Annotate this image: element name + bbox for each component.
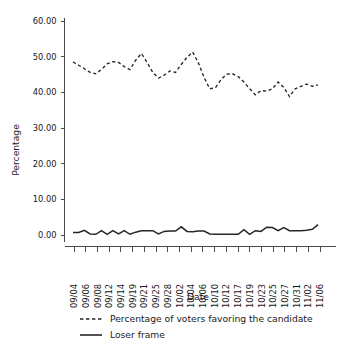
x-axis-tick-label: 09/28 <box>163 284 173 308</box>
y-axis-tick-label: 30.00 <box>33 123 57 133</box>
x-axis-tick-label: 10/23 <box>257 284 267 308</box>
x-axis-tick-label: 09/19 <box>128 284 138 308</box>
x-axis-tick-label: 10/27 <box>280 284 290 308</box>
x-axis-tick-label: 11/02 <box>303 284 313 308</box>
x-axis-tick-label: 10/17 <box>233 284 243 308</box>
legend-label: Loser frame <box>110 329 165 340</box>
x-axis-tick-label: 09/14 <box>116 284 126 308</box>
y-axis-tick-label: 50.00 <box>33 52 57 62</box>
x-axis-tick-label: 10/31 <box>292 284 302 308</box>
x-axis-tick-label: 09/25 <box>151 284 161 308</box>
legend-label: Percentage of voters favoring the candid… <box>110 313 313 324</box>
x-axis-title: Date <box>187 291 209 302</box>
x-axis-tick-label: 09/04 <box>69 284 79 308</box>
x-axis-tick-label: 10/10 <box>210 284 220 308</box>
y-axis-title: Percentage <box>10 124 21 176</box>
y-axis-tick-label: 0.00 <box>38 230 56 240</box>
y-axis-tick-label: 10.00 <box>33 194 57 204</box>
y-axis-tick-label: 40.00 <box>33 87 57 97</box>
x-axis-tick-label: 09/21 <box>139 284 149 308</box>
x-axis-tick-label: 10/02 <box>175 284 185 308</box>
x-axis-tick-label: 09/06 <box>81 284 91 308</box>
x-axis-tick-label: 10/25 <box>268 284 278 308</box>
chart-canvas: 0.0010.0020.0030.0040.0050.0060.00 09/04… <box>0 0 344 347</box>
x-axis-tick-label: 09/08 <box>93 284 103 308</box>
x-axis-tick-label: 11/06 <box>315 284 325 308</box>
y-axis-tick-label: 20.00 <box>33 159 57 169</box>
x-axis-tick-label: 10/19 <box>245 284 255 308</box>
y-axis-tick-label: 60.00 <box>33 16 57 26</box>
x-axis-tick-label: 09/12 <box>104 284 114 308</box>
x-axis-tick-label: 10/12 <box>221 284 231 308</box>
line-chart-figure: 0.0010.0020.0030.0040.0050.0060.00 09/04… <box>0 0 344 347</box>
